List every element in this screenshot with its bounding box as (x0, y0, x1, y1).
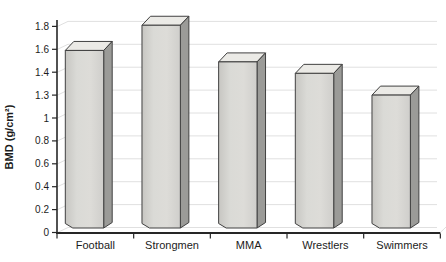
bar-front-face (219, 62, 257, 228)
y-tick-label: 1.3 (35, 90, 49, 101)
chart-canvas: 00.20.40.60.811.31.41.61.8FootballStrong… (0, 0, 446, 262)
y-tick-label: 1 (43, 113, 49, 124)
y-tick-label: 0 (43, 227, 49, 238)
gridline (58, 44, 438, 49)
bar-side-face (180, 16, 189, 228)
x-tick-label: Strongmen (145, 239, 199, 251)
y-tick-label: 0.4 (35, 181, 49, 192)
bar-swimmers (372, 86, 419, 228)
bmd-bar-chart: 00.20.40.60.811.31.41.61.8FootballStrong… (0, 0, 446, 262)
y-tick-label: 0.6 (35, 158, 49, 169)
bar-wrestlers (295, 64, 342, 228)
bar-side-face (257, 53, 266, 228)
y-tick-label: 1.6 (35, 44, 49, 55)
y-axis-title: BMD (g/cm²) (3, 104, 15, 169)
bar-layer (65, 16, 419, 228)
y-tick-label: 1.8 (35, 21, 49, 32)
bar-strongmen (142, 16, 189, 228)
bar-front-face (372, 95, 410, 228)
gridline (58, 21, 438, 26)
bar-football (65, 41, 112, 228)
x-tick-label: Wrestlers (302, 239, 349, 251)
y-tick-label: 1.4 (35, 67, 49, 78)
floor-right-edge (440, 227, 446, 233)
x-tick-label: Football (76, 239, 115, 251)
x-tick-label: Swimmers (376, 239, 428, 251)
y-tick-label: 0.2 (35, 204, 49, 215)
bar-front-face (65, 50, 103, 228)
bar-front-face (142, 25, 180, 228)
x-tick-label: MMA (236, 239, 262, 251)
bar-front-face (295, 73, 333, 228)
bar-mma (219, 53, 266, 228)
bar-side-face (410, 86, 419, 228)
bar-side-face (334, 64, 343, 228)
bar-side-face (104, 41, 113, 228)
y-tick-label: 0.8 (35, 135, 49, 146)
